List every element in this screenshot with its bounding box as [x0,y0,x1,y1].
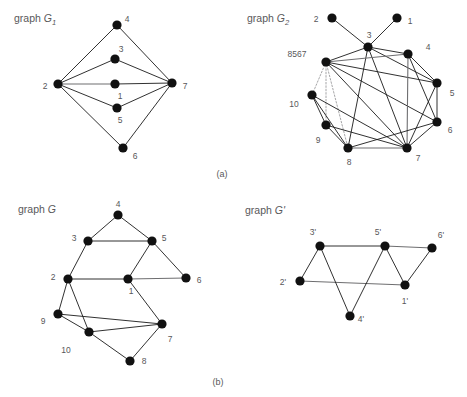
graph-title-prefix-g2: graph [247,12,277,24]
edge-5p-4p [350,246,385,316]
node-label-g2-7: 7 [416,153,421,163]
edge-5-7 [117,83,172,108]
node-g-2[interactable] [63,274,72,283]
node-g1-3[interactable] [110,54,119,63]
node-label-g2-4: 4 [426,42,431,52]
node-g2-9[interactable] [321,120,330,129]
node-label-gprime-5p: 5' [375,227,382,237]
node-g-8[interactable] [125,356,134,365]
node-g2-8[interactable] [343,143,352,152]
edge-2-3 [332,18,368,47]
node-g1-6[interactable] [118,143,127,152]
edge-8567-10 [312,62,326,95]
node-label-g2-8: 8 [347,157,352,167]
panel-caption-a: (a) [217,169,228,179]
node-g2-6[interactable] [432,117,441,126]
node-g2-10[interactable] [307,90,316,99]
graph-title-g: graph G [18,203,56,215]
edge-6p-1p [405,248,432,285]
edge-5-6 [152,241,186,278]
node-gprime-1p[interactable] [400,280,409,289]
graph-g: 43521691078graph G [18,199,202,366]
graph-title-prefix-g: graph [18,203,48,215]
graph-g2: 213856745610987graph G2 [247,12,455,167]
node-gprime-4p[interactable] [345,311,354,320]
node-g-3[interactable] [83,236,92,245]
edge-2-5 [58,84,117,108]
graph-gprime: 3'5'6'2'1'4'graph G' [245,204,445,324]
edge-4-7 [407,54,408,148]
node-g2-3[interactable] [363,42,372,51]
node-g2-5[interactable] [432,78,441,87]
graph-title-name-g2: G [277,12,285,24]
node-label-g1-1: 1 [118,91,123,101]
edge-5p-1p [385,246,405,285]
edge-1-7 [115,83,172,84]
edge-3-7 [115,59,172,83]
edge-5-7 [407,83,437,148]
node-label-g-6: 6 [197,275,202,285]
edge-8567-6 [326,62,437,122]
graph-gprime-nodes: 3'5'6'2'1'4' [280,227,445,324]
edge-6-7 [123,83,172,148]
node-gprime-6p[interactable] [427,243,436,252]
graph-g-nodes: 43521691078 [41,199,202,366]
node-g1-4[interactable] [112,20,121,29]
node-label-g2-1: 1 [408,16,413,26]
graph-g2-nodes: 213856745610987 [288,13,455,167]
node-g-6[interactable] [181,273,190,282]
node-g-5[interactable] [147,236,156,245]
graph-g1: 2431567graph G1 [14,12,188,161]
node-label-g-1: 1 [129,286,134,296]
node-g1-1[interactable] [110,79,119,88]
node-g2-2[interactable] [327,13,336,22]
node-g-9[interactable] [53,309,62,318]
node-label-g-4: 4 [116,199,121,209]
node-gprime-2p[interactable] [295,276,304,285]
node-g-10[interactable] [84,327,93,336]
node-label-g-7: 7 [168,334,173,344]
node-label-g1-3: 3 [119,44,124,54]
node-g1-7[interactable] [167,78,176,87]
node-g2-4[interactable] [403,49,412,58]
node-g-1[interactable] [123,274,132,283]
edge-2-9 [58,279,68,314]
node-label-gprime-1p: 1' [402,296,409,306]
edge-3p-2p [300,246,320,281]
graph-gprime-edges [300,246,432,316]
edge-5p-6p [385,246,432,248]
node-label-g-2: 2 [51,272,56,282]
graph-title-name-gprime: G' [275,204,286,216]
node-g-4[interactable] [113,210,122,219]
node-label-g-8: 8 [142,356,147,366]
node-gprime-5p[interactable] [380,241,389,250]
edge-3-8 [348,47,368,148]
edge-6-7 [407,122,437,148]
node-gprime-3p[interactable] [315,241,324,250]
node-g1-2[interactable] [53,79,62,88]
node-label-g1-4: 4 [125,14,130,24]
edge-10-8 [89,332,130,361]
node-g2-1[interactable] [392,13,401,22]
graph-title-g2: graph G2 [247,12,290,27]
graph-title-g1: graph G1 [14,12,56,27]
node-label-g-5: 5 [162,233,167,243]
node-label-gprime-3p: 3' [310,227,317,237]
edge-5-1 [128,241,152,279]
node-g2-8567[interactable] [321,57,330,66]
graph-figure-canvas: 2431567graph G1213856745610987graph G243… [0,0,467,397]
node-g2-7[interactable] [402,143,411,152]
edge-4-5 [118,215,152,241]
edge-2p-1p [300,281,405,285]
edge-2-10 [68,279,89,332]
graph-title-prefix-g1: graph [14,12,44,24]
node-g-7[interactable] [157,319,166,328]
edge-9-7 [58,314,162,324]
node-g1-5[interactable] [112,103,121,112]
graph-g1-nodes: 2431567 [43,14,188,161]
node-label-g1-7: 7 [183,81,188,91]
edge-3p-4p [320,246,350,316]
graph-title-subscript-g2: 2 [284,18,290,27]
edge-2-4 [58,25,117,84]
panel-caption-b: (b) [213,377,224,387]
